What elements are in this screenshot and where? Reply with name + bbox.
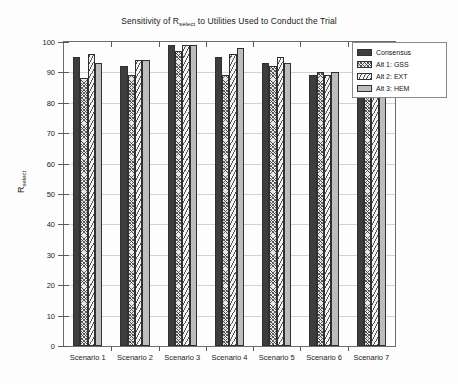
x-axis-tick-label: Scenario 5: [259, 353, 295, 362]
legend-item: Consensus: [357, 46, 443, 58]
legend-item: Alt 3: HEM: [357, 82, 443, 94]
bar: [168, 45, 175, 346]
x-axis-tick: [206, 346, 207, 351]
bar: [379, 94, 386, 346]
x-axis-tick: [159, 346, 160, 351]
bar: [120, 66, 127, 346]
bar: [88, 54, 95, 346]
chart-title-main-pre: Sensitivity of R: [121, 16, 179, 26]
y-axis-tick-inner: [64, 164, 69, 165]
legend-swatch: [357, 49, 372, 56]
y-axis-tick-inner: [64, 255, 69, 256]
bar-group: [262, 42, 291, 346]
bar: [324, 75, 331, 346]
bar: [229, 54, 236, 346]
chart-figure: Sensitivity of Rselect to Utilities Used…: [0, 0, 458, 384]
bar: [262, 63, 269, 346]
x-axis-tick-top: [253, 42, 254, 47]
legend-swatch: [357, 73, 372, 80]
bar: [215, 57, 222, 346]
plot-area: 0102030405060708090100Scenario 1Scenario…: [63, 41, 396, 347]
x-axis-tick-top: [206, 42, 207, 47]
bar: [277, 57, 284, 346]
y-axis-tick-label: 90: [47, 68, 55, 77]
y-axis-label-main: R: [16, 187, 26, 194]
bar: [182, 45, 189, 346]
bar: [95, 63, 102, 346]
y-axis-label-subscript: select: [21, 171, 27, 187]
legend-item: Alt 1: GSS: [357, 58, 443, 70]
x-axis-tick-top: [300, 42, 301, 47]
bar: [135, 60, 142, 346]
bar: [284, 63, 291, 346]
bar-group: [168, 42, 197, 346]
bar: [80, 78, 87, 346]
legend-item: Alt 2: EXT: [357, 70, 443, 82]
x-axis-tick-top: [159, 42, 160, 47]
x-axis-tick-label: Scenario 3: [164, 353, 200, 362]
bar: [73, 57, 80, 346]
x-axis-tick: [348, 346, 349, 351]
x-axis-tick-label: Scenario 4: [212, 353, 248, 362]
y-axis-tick-inner: [64, 42, 69, 43]
x-axis-tick-label: Scenario 1: [70, 353, 106, 362]
bar: [190, 45, 197, 346]
bar: [331, 72, 338, 346]
legend-label: Consensus: [376, 49, 411, 56]
x-axis-tick: [300, 346, 301, 351]
bar: [309, 75, 316, 346]
x-axis-tick-label: Scenario 2: [117, 353, 153, 362]
y-axis-tick-label: 30: [47, 250, 55, 259]
y-axis-tick-inner: [64, 133, 69, 134]
legend-label: Alt 2: EXT: [376, 73, 408, 80]
legend-label: Alt 1: GSS: [376, 61, 409, 68]
y-axis-tick-label: 100: [42, 38, 55, 47]
chart-title: Sensitivity of Rselect to Utilities Used…: [0, 16, 458, 27]
y-axis-tick-label: 80: [47, 98, 55, 107]
bar-group: [215, 42, 244, 346]
x-axis-tick-label: Scenario 7: [353, 353, 389, 362]
x-axis-tick-top: [348, 42, 349, 47]
y-axis-tick-label: 20: [47, 281, 55, 290]
bar-group: [73, 42, 102, 346]
bar: [128, 75, 135, 346]
bar: [357, 78, 364, 346]
y-axis-tick-label: 50: [47, 190, 55, 199]
y-axis-tick-inner: [64, 285, 69, 286]
y-axis-tick-label: 60: [47, 159, 55, 168]
bar-group: [120, 42, 149, 346]
bar-group: [309, 42, 338, 346]
x-axis-tick-top: [111, 42, 112, 47]
chart-legend: ConsensusAlt 1: GSSAlt 2: EXTAlt 3: HEM: [352, 42, 447, 98]
y-axis-tick-label: 0: [51, 342, 55, 351]
x-axis-tick: [253, 346, 254, 351]
chart-title-main-post: to Utilities Used to Conduct the Trial: [195, 16, 336, 26]
bar: [269, 66, 276, 346]
legend-swatch: [357, 61, 372, 68]
bar: [317, 72, 324, 346]
y-axis-tick-inner: [64, 103, 69, 104]
x-axis-tick: [111, 346, 112, 351]
y-axis-tick-inner: [64, 194, 69, 195]
y-axis-tick-inner: [64, 72, 69, 73]
legend-swatch: [357, 85, 372, 92]
y-axis-tick-label: 70: [47, 129, 55, 138]
y-axis-tick-inner: [64, 346, 69, 347]
chart-title-subscript: select: [179, 21, 195, 27]
bar: [222, 75, 229, 346]
y-axis-tick-inner: [64, 224, 69, 225]
y-axis-tick-label: 40: [47, 220, 55, 229]
x-axis-tick-label: Scenario 6: [306, 353, 342, 362]
bar: [142, 60, 149, 346]
bar: [175, 51, 182, 346]
bar: [237, 48, 244, 346]
y-axis-tick-inner: [64, 316, 69, 317]
bar: [371, 72, 378, 346]
y-axis-tick-label: 10: [47, 311, 55, 320]
bar: [364, 88, 371, 346]
y-axis-label: Rselect: [16, 171, 27, 193]
legend-label: Alt 3: HEM: [376, 85, 409, 92]
